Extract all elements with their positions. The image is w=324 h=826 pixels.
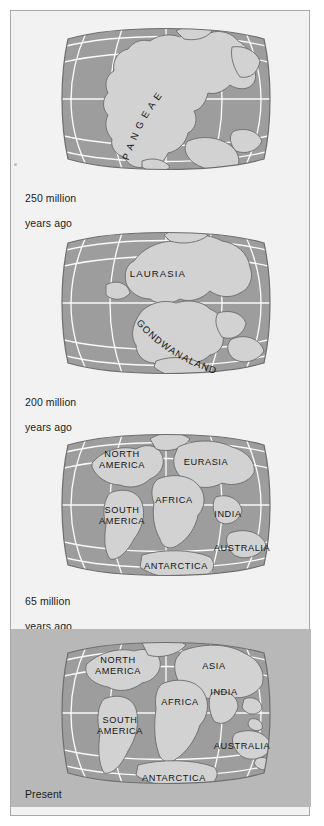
map-label-south-america: SOUTH	[104, 505, 139, 515]
caption-200ma-line1: 200 million	[25, 396, 76, 409]
panel-present: NORTH AMERICA ASIA INDIA AFRICA SOUTH AM…	[11, 629, 311, 807]
map-label-south-america: SOUTH	[102, 715, 137, 725]
map-present: NORTH AMERICA ASIA INDIA AFRICA SOUTH AM…	[46, 637, 286, 789]
map-label-india: INDIA	[210, 687, 238, 697]
map-label-asia: ASIA	[202, 661, 226, 671]
map-label-antarctica: ANTARCTICA	[142, 773, 206, 783]
map-label-north-america-line2: AMERICA	[99, 460, 145, 470]
map-label-australia: AUSTRALIA	[214, 543, 271, 553]
map-label-south-america-line2: AMERICA	[97, 726, 143, 736]
print-speck	[14, 163, 17, 166]
caption-65ma-line1: 65 million	[25, 595, 72, 608]
globe-present: NORTH AMERICA ASIA INDIA AFRICA SOUTH AM…	[46, 637, 286, 789]
map-label-laurasia: LAURASIA	[130, 268, 186, 279]
globe-200ma: LAURASIA GONDWANALAND	[46, 227, 286, 379]
map-label-north-america-line2: AMERICA	[95, 666, 141, 676]
panel-200-million-years-ago: LAURASIA GONDWANALAND 200 million years …	[11, 213, 311, 417]
map-65ma: NORTH AMERICA EURASIA AFRICA SOUTH AMERI…	[46, 429, 286, 581]
caption-present: Present	[25, 775, 62, 813]
caption-present-line1: Present	[25, 788, 62, 801]
map-label-australia: AUSTRALIA	[214, 741, 271, 751]
map-label-india: INDIA	[214, 509, 242, 519]
map-label-south-america-line2: AMERICA	[99, 516, 145, 526]
map-label-antarctica: ANTARCTICA	[144, 561, 208, 571]
panel-250-million-years-ago: P A N G E A E 250 million years ago	[11, 11, 311, 213]
map-250ma: P A N G E A E	[46, 23, 286, 175]
map-label-north-america: NORTH	[100, 655, 136, 665]
figure-frame: P A N G E A E 250 million years ago	[10, 10, 310, 816]
map-200ma: LAURASIA GONDWANALAND	[46, 227, 286, 379]
map-label-africa: AFRICA	[155, 495, 193, 505]
globe-250ma: P A N G E A E	[46, 23, 286, 175]
panel-65-million-years-ago: NORTH AMERICA EURASIA AFRICA SOUTH AMERI…	[11, 417, 311, 621]
map-label-eurasia: EURASIA	[184, 457, 229, 467]
caption-250ma-line1: 250 million	[25, 192, 76, 205]
map-label-north-america: NORTH	[104, 449, 140, 459]
map-label-africa: AFRICA	[161, 697, 199, 707]
globe-65ma: NORTH AMERICA EURASIA AFRICA SOUTH AMERI…	[46, 429, 286, 581]
